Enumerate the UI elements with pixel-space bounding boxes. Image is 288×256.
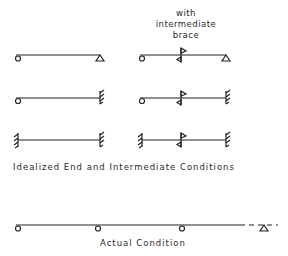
beam-diagram	[0, 0, 288, 256]
fixed-support-icon	[100, 90, 104, 104]
actual-caption: Actual Condition	[100, 238, 186, 248]
roller-support-icon	[260, 225, 268, 231]
pin-support-icon	[96, 226, 101, 231]
row-2-braced	[140, 90, 231, 105]
pin-support-icon	[16, 226, 21, 231]
fixed-support-icon	[138, 133, 142, 148]
fixed-support-icon	[14, 133, 18, 148]
row-3-braced	[138, 132, 230, 148]
fixed-support-icon	[226, 90, 230, 104]
roller-support-icon	[222, 55, 230, 61]
pin-support-icon	[140, 99, 145, 104]
fixed-support-icon	[226, 132, 230, 147]
pin-support-icon	[140, 56, 145, 61]
fixed-support-icon	[100, 132, 104, 147]
pin-support-icon	[16, 99, 21, 104]
row-3-unbraced	[14, 132, 104, 148]
actual-condition-beam	[16, 225, 279, 231]
pin-support-icon	[180, 226, 185, 231]
pin-support-icon	[16, 56, 21, 61]
roller-support-icon	[96, 55, 104, 61]
idealized-caption: Idealized End and Intermediate Condition…	[13, 162, 235, 172]
row-1-unbraced	[16, 55, 105, 61]
row-2-unbraced	[16, 90, 105, 104]
row-1-braced	[140, 48, 231, 62]
